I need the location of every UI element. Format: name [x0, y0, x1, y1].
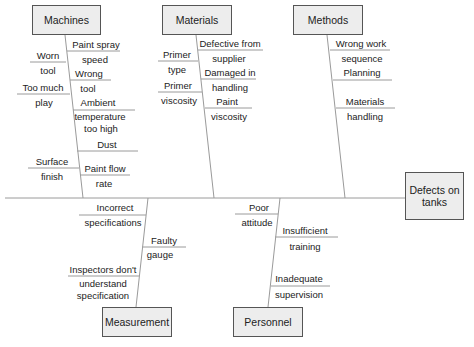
- cause-label: Worn: [37, 50, 60, 61]
- cause-label: viscosity: [161, 95, 197, 106]
- cause-label: Faulty: [151, 235, 177, 246]
- cause-label: too high: [84, 123, 118, 134]
- cause-label: Dust: [97, 139, 117, 150]
- cause-label: Planning: [344, 67, 381, 78]
- cause-label: Primer: [164, 80, 192, 91]
- cause-label: play: [35, 97, 52, 108]
- cause-label: training: [289, 241, 320, 252]
- cause-label: Paint spray: [72, 39, 120, 50]
- cause-label: Materials: [346, 96, 385, 107]
- cause-label: specifications: [84, 217, 141, 228]
- cause-label: understand: [79, 278, 127, 289]
- cause-label: temperature: [74, 111, 125, 122]
- cause-label: Insufficient: [282, 225, 327, 236]
- cause-label: handling: [347, 111, 383, 122]
- cause-label: type: [168, 64, 186, 75]
- cause-label: rate: [96, 178, 112, 189]
- cause-label: speed: [82, 54, 108, 65]
- category-label: Materials: [176, 14, 219, 26]
- cause-label: Too much: [22, 82, 63, 93]
- cause-label: Poor: [249, 202, 269, 213]
- cause-label: supplier: [212, 53, 245, 64]
- cause-label: Inspectors don't: [70, 264, 137, 275]
- cause-label: handling: [212, 82, 248, 93]
- cause-label: tool: [40, 65, 55, 76]
- effect-label: Defects on tanks: [406, 184, 463, 208]
- category-label: Machines: [44, 14, 89, 26]
- cause-label: supervision: [275, 289, 323, 300]
- category-label: Methods: [308, 14, 348, 26]
- category-personnel: Personnel: [233, 307, 303, 337]
- category-label: Measurement: [105, 316, 169, 328]
- category-measurement: Measurement: [102, 307, 172, 337]
- effect-box: Defects on tanks: [405, 172, 464, 220]
- cause-label: Wrong: [75, 68, 103, 79]
- category-methods: Methods: [293, 5, 363, 35]
- cause-label: attitude: [241, 217, 272, 228]
- cause-label: tool: [80, 83, 95, 94]
- cause-label: Wrong work: [336, 38, 387, 49]
- cause-label: Paint: [216, 96, 238, 107]
- category-machines: Machines: [32, 5, 101, 35]
- cause-label: gauge: [147, 249, 173, 260]
- category-materials: Materials: [162, 5, 232, 35]
- cause-label: Paint flow: [84, 163, 125, 174]
- category-label: Personnel: [244, 316, 291, 328]
- cause-label: viscosity: [211, 111, 247, 122]
- cause-label: Incorrect: [97, 202, 134, 213]
- cause-label: finish: [41, 171, 63, 182]
- cause-label: Inadequate: [275, 273, 323, 284]
- cause-label: Surface: [36, 156, 69, 167]
- cause-label: sequence: [341, 53, 382, 64]
- cause-label: Ambient: [81, 97, 116, 108]
- cause-label: Damaged in: [204, 67, 255, 78]
- cause-label: specification: [77, 290, 129, 301]
- cause-label: Defective from: [199, 38, 260, 49]
- cause-label: Primer: [163, 49, 191, 60]
